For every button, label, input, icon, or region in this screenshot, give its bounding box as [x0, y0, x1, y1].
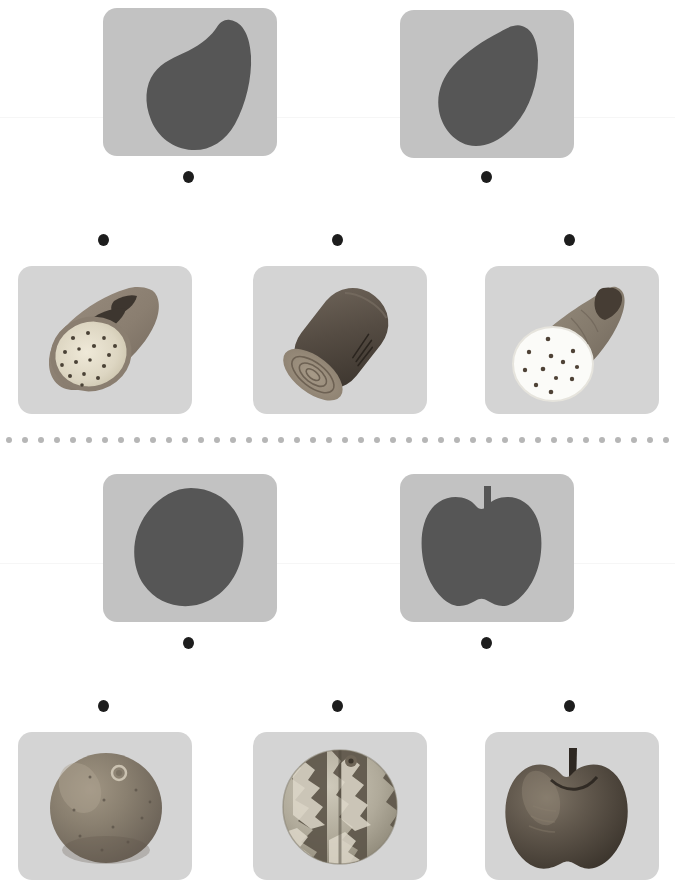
divider-dot	[38, 437, 44, 443]
divider-dot	[599, 437, 605, 443]
connector-dot-photo-taro	[564, 234, 575, 246]
dotted-divider	[0, 437, 675, 443]
divider-dot	[663, 437, 669, 443]
divider-dot	[342, 437, 348, 443]
sweet-potato-photo	[18, 266, 192, 414]
silhouette-card-yam[interactable]	[400, 10, 574, 158]
divider-dot	[134, 437, 140, 443]
divider-dot	[615, 437, 621, 443]
divider-dot	[246, 437, 252, 443]
divider-dot	[118, 437, 124, 443]
divider-dot	[422, 437, 428, 443]
divider-dot	[150, 437, 156, 443]
connector-dot-orange	[183, 637, 194, 649]
silhouette-card-apple[interactable]	[400, 474, 574, 622]
photo-card-watermelon[interactable]	[253, 732, 427, 880]
orange-photo	[18, 732, 192, 880]
divider-dot	[438, 437, 444, 443]
round-fruit-silhouette-icon	[103, 474, 277, 622]
sweet-potato-silhouette-icon	[103, 8, 277, 156]
photo-card-sweet-potato[interactable]	[18, 266, 192, 414]
divider-dot	[86, 437, 92, 443]
connector-dot-photo-orange	[98, 700, 109, 712]
divider-dot	[390, 437, 396, 443]
silhouette-card-orange[interactable]	[103, 474, 277, 622]
divider-dot	[182, 437, 188, 443]
divider-dot	[294, 437, 300, 443]
divider-dot	[486, 437, 492, 443]
divider-dot	[54, 437, 60, 443]
divider-dot	[278, 437, 284, 443]
cassava-photo	[253, 266, 427, 414]
connector-dot-photo-watermelon	[332, 700, 343, 712]
watermelon-photo	[253, 732, 427, 880]
divider-dot	[583, 437, 589, 443]
taro-photo	[485, 266, 659, 414]
divider-dot	[262, 437, 268, 443]
divider-dot	[406, 437, 412, 443]
connector-dot-yam	[481, 171, 492, 183]
apple-photo	[485, 732, 659, 880]
silhouette-card-sweet-potato[interactable]	[103, 8, 277, 156]
divider-dot	[198, 437, 204, 443]
connector-dot-apple	[481, 637, 492, 649]
divider-dot	[6, 437, 12, 443]
divider-dot	[358, 437, 364, 443]
divider-dot	[230, 437, 236, 443]
divider-dot	[470, 437, 476, 443]
photo-card-taro[interactable]	[485, 266, 659, 414]
matching-board	[0, 0, 675, 887]
apple-silhouette-icon	[400, 474, 574, 622]
divider-dot	[551, 437, 557, 443]
divider-dot	[647, 437, 653, 443]
divider-dot	[166, 437, 172, 443]
divider-dot	[102, 437, 108, 443]
photo-card-cassava[interactable]	[253, 266, 427, 414]
divider-dot	[567, 437, 573, 443]
divider-dot	[631, 437, 637, 443]
divider-dot	[70, 437, 76, 443]
divider-dot	[22, 437, 28, 443]
connector-dot-photo-apple	[564, 700, 575, 712]
divider-dot	[535, 437, 541, 443]
divider-dot	[502, 437, 508, 443]
divider-dot	[310, 437, 316, 443]
yam-silhouette-icon	[400, 10, 574, 158]
photo-card-apple[interactable]	[485, 732, 659, 880]
divider-dot	[454, 437, 460, 443]
divider-dot	[519, 437, 525, 443]
connector-dot-photo-sweet-potato	[98, 234, 109, 246]
photo-card-orange[interactable]	[18, 732, 192, 880]
connector-dot-photo-cassava	[332, 234, 343, 246]
divider-dot	[214, 437, 220, 443]
connector-dot-sweet-potato	[183, 171, 194, 183]
divider-dot	[326, 437, 332, 443]
divider-dot	[374, 437, 380, 443]
